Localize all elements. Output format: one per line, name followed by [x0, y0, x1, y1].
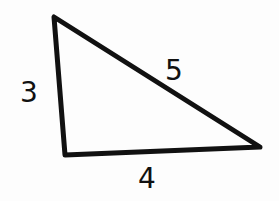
triangle-shape	[54, 17, 260, 155]
triangle-diagram: 3 5 4	[0, 0, 279, 201]
left-side-label: 3	[20, 76, 38, 109]
hypotenuse-label: 5	[165, 54, 183, 87]
bottom-side-label: 4	[138, 162, 156, 195]
